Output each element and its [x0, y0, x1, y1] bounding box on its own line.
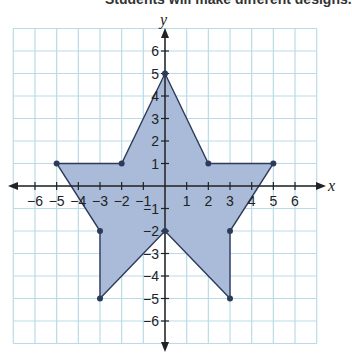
y-tick-label: −3 [143, 246, 159, 262]
x-tick-label: −4 [70, 193, 86, 209]
vertex-point [119, 161, 125, 167]
x-tick-label: 6 [291, 193, 299, 209]
y-tick-label: −5 [143, 291, 159, 307]
y-tick-label: 3 [151, 111, 159, 127]
y-tick-label: 6 [151, 43, 159, 59]
x-tick-label: −6 [27, 193, 43, 209]
vertex-point [270, 161, 276, 167]
y-tick-label: −4 [143, 268, 159, 284]
y-tick-label: 4 [151, 88, 159, 104]
vertex-point [227, 228, 233, 234]
x-tick-label: −3 [92, 193, 108, 209]
vertex-point [162, 228, 168, 234]
vertex-point [205, 161, 211, 167]
y-axis-down-arrow-icon [161, 342, 169, 352]
x-tick-label: −2 [114, 193, 130, 209]
x-tick-label: 3 [226, 193, 234, 209]
y-axis-label: y [158, 11, 168, 29]
x-tick-label: 4 [248, 193, 256, 209]
y-tick-label: 1 [151, 156, 159, 172]
y-tick-label: −6 [143, 313, 159, 329]
x-tick-label: 1 [183, 193, 191, 209]
x-axis-label: x [327, 177, 335, 194]
x-tick-label: −5 [49, 193, 65, 209]
y-axis-up-arrow-icon [161, 28, 169, 38]
x-axis-right-arrow-icon [316, 182, 326, 190]
vertex-point [97, 228, 103, 234]
y-tick-label: −1 [143, 201, 159, 217]
vertex-point [97, 296, 103, 302]
y-tick-label: 2 [151, 133, 159, 149]
x-tick-label: 5 [269, 193, 277, 209]
vertex-point [162, 71, 168, 77]
vertex-point [227, 296, 233, 302]
y-tick-label: 5 [151, 66, 159, 82]
y-tick-label: −2 [143, 223, 159, 239]
vertex-point [54, 161, 60, 167]
x-tick-label: 2 [204, 193, 212, 209]
